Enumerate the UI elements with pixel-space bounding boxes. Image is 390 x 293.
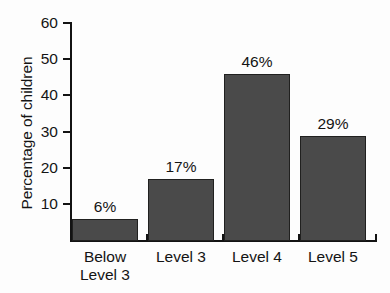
y-tick-label-40: 40: [22, 87, 58, 103]
y-tick-label-60: 60: [22, 15, 58, 31]
x-category-line: Level 3: [148, 248, 214, 266]
x-category-label-level-5: Level 5: [300, 248, 366, 266]
x-category-label-below-level-3: Below Level 3: [72, 248, 138, 283]
bar-level-5: [300, 136, 366, 241]
x-category-line: Level 4: [224, 248, 290, 266]
x-category-line: Level 5: [300, 248, 366, 266]
x-category-line: Level 3: [72, 266, 138, 284]
x-category-label-level-4: Level 4: [224, 248, 290, 266]
y-tick-label-text: 40: [22, 87, 58, 103]
x-category-line: Below: [72, 248, 138, 266]
y-tick-label-text: 60: [22, 15, 58, 31]
y-tick-label-50: 50: [22, 51, 58, 67]
bar-chart: Percentage of children 60 50 40 30 20 10…: [0, 0, 390, 293]
bar-level-3: [148, 179, 214, 241]
x-category-label-level-3: Level 3: [148, 248, 214, 266]
y-tick-label-10: 10: [22, 196, 58, 212]
bar-level-4: [224, 74, 290, 241]
bar-value-level-3: 17%: [148, 159, 214, 175]
bar-below-level-3: [72, 219, 138, 241]
bar-value-level-4: 46%: [224, 54, 290, 70]
y-tick-label-text: 50: [22, 51, 58, 67]
y-tick-label-30: 30: [22, 124, 58, 140]
y-tick-label-text: 10: [22, 196, 58, 212]
y-tick-label-text: 20: [22, 160, 58, 176]
y-tick-10: [63, 203, 71, 205]
y-tick-20: [63, 167, 71, 169]
y-tick-40: [63, 94, 71, 96]
y-tick-30: [63, 131, 71, 133]
bar-value-below-level-3: 6%: [72, 199, 138, 215]
x-tick-4: [375, 234, 377, 242]
y-tick-label-text: 30: [22, 124, 58, 140]
y-tick-50: [63, 58, 71, 60]
bar-value-level-5: 29%: [300, 116, 366, 132]
y-tick-label-20: 20: [22, 160, 58, 176]
y-tick-60: [63, 22, 71, 24]
